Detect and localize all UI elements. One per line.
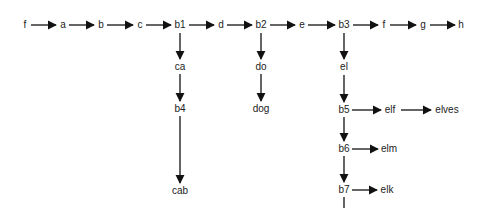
node-b7: b7 xyxy=(338,185,349,195)
node-b2: b2 xyxy=(255,20,266,30)
node-elm: elm xyxy=(381,144,397,154)
trie-diagram: fabcb1db2eb3fghcab4cabdodogelb5elfelvesb… xyxy=(0,0,488,208)
node-b1: b1 xyxy=(174,20,185,30)
node-el: el xyxy=(340,62,348,72)
node-b: b xyxy=(98,20,104,30)
node-elf: elf xyxy=(385,105,396,115)
node-dog: dog xyxy=(253,104,270,114)
node-b5: b5 xyxy=(338,105,349,115)
node-elk: elk xyxy=(381,185,394,195)
node-c: c xyxy=(138,20,143,30)
node-h: h xyxy=(458,20,464,30)
node-e: e xyxy=(299,20,305,30)
node-cab: cab xyxy=(172,186,188,196)
node-ca: ca xyxy=(175,62,186,72)
node-f: f xyxy=(24,20,27,30)
node-b4: b4 xyxy=(174,104,185,114)
node-a: a xyxy=(60,20,66,30)
node-d: d xyxy=(218,20,224,30)
node-do: do xyxy=(255,62,266,72)
node-b3: b3 xyxy=(338,20,349,30)
edge-layer xyxy=(0,0,488,208)
node-elves: elves xyxy=(435,105,458,115)
node-b6: b6 xyxy=(338,144,349,154)
node-f: f xyxy=(383,20,386,30)
node-g: g xyxy=(420,20,426,30)
